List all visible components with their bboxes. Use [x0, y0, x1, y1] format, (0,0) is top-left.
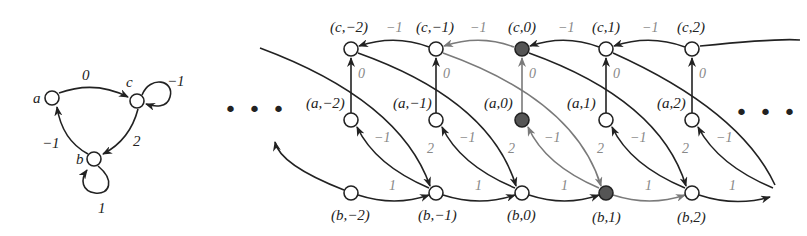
grid-edges	[260, 40, 800, 202]
diagram-canvas: a c b 0 −1 2 −1 1 • • • • • •	[0, 0, 807, 236]
weight-b-loop: 1	[98, 200, 106, 216]
svg-text:1: 1	[729, 178, 736, 193]
small-graph-nodes	[45, 91, 144, 166]
edge-b-a	[57, 107, 88, 154]
svg-text:0: 0	[613, 66, 620, 81]
node-b-1-highlighted	[599, 186, 613, 200]
label-c-0: (c,0)	[508, 19, 536, 36]
weight-c-loop: −1	[167, 73, 185, 89]
node-b-0	[515, 186, 529, 200]
edge-b2-to-b3	[699, 195, 770, 202]
edge-b0-to-b1	[529, 195, 599, 201]
edge-a-c	[59, 87, 128, 97]
weight-a-c: 0	[82, 67, 90, 83]
weight-b-a: −1	[42, 135, 60, 151]
label-b-minus2: (b,−2)	[331, 207, 370, 224]
label-a-minus2: (a,−2)	[306, 95, 345, 112]
node-c	[130, 94, 144, 108]
ellipsis-right: • • •	[735, 100, 798, 125]
label-b-0: (b,0)	[507, 207, 536, 224]
edge-c0-to-c-1	[444, 40, 514, 47]
node-a-2	[685, 113, 699, 127]
label-c-2: (c,2)	[677, 19, 705, 36]
edge-c2-to-c1	[614, 40, 685, 47]
svg-text:1: 1	[389, 178, 396, 193]
svg-text:−1: −1	[374, 130, 390, 145]
svg-text:2: 2	[597, 141, 604, 156]
label-c-1: (c,1)	[592, 19, 620, 36]
weight-c-b: 2	[133, 133, 141, 149]
node-b-minus1	[429, 186, 443, 200]
svg-text:−1: −1	[459, 130, 475, 145]
svg-text:−1: −1	[716, 130, 732, 145]
svg-text:0: 0	[699, 66, 706, 81]
label-b-minus1: (b,−1)	[418, 207, 457, 224]
edge-b-2-to-a-3	[275, 142, 344, 190]
node-a-minus2	[344, 113, 358, 127]
label-b: b	[76, 151, 84, 167]
label-a-0: (a,0)	[484, 95, 513, 112]
graph-svg: a c b 0 −1 2 −1 1 • • • • • •	[0, 0, 807, 236]
node-a-minus1	[429, 113, 443, 127]
svg-text:2: 2	[508, 141, 515, 156]
label-a: a	[33, 90, 41, 106]
svg-text:−1: −1	[630, 130, 646, 145]
svg-text:2: 2	[682, 141, 689, 156]
svg-text:−1: −1	[470, 20, 486, 35]
edge-b-1-to-b0	[443, 195, 515, 201]
label-b-2: (b,2)	[677, 209, 706, 226]
small-graph	[57, 82, 171, 193]
node-c-minus2	[344, 42, 358, 56]
svg-text:2: 2	[427, 141, 434, 156]
edge-b1-to-b2	[613, 195, 685, 201]
node-c-0-highlighted	[515, 42, 529, 56]
node-b	[87, 152, 101, 166]
node-c-minus1	[429, 42, 443, 56]
svg-text:−1: −1	[544, 130, 560, 145]
ellipsis-left: • • •	[224, 97, 287, 122]
svg-text:−1: −1	[642, 20, 658, 35]
node-a	[45, 91, 59, 105]
svg-text:−1: −1	[386, 20, 402, 35]
node-c-2	[685, 42, 699, 56]
label-a-1: (a,1)	[567, 95, 596, 112]
label-c-minus2: (c,−2)	[330, 19, 368, 36]
svg-text:0: 0	[443, 66, 450, 81]
svg-text:−1: −1	[558, 20, 574, 35]
node-b-2	[685, 186, 699, 200]
node-c-1	[599, 42, 613, 56]
label-c: c	[126, 74, 133, 90]
label-b-1: (b,1)	[592, 209, 621, 226]
edge-c1-to-c0	[530, 40, 599, 47]
edge-c-1-to-c-2	[359, 40, 429, 47]
edge-c3-to-c2	[700, 40, 800, 46]
grid-node-labels: (c,−2) (c,−1) (c,0) (c,1) (c,2) (a,−2) (…	[306, 19, 706, 226]
node-a-0-highlighted	[515, 113, 529, 127]
node-a-1	[599, 113, 613, 127]
edge-b-b-loop	[83, 166, 109, 193]
label-a-2: (a,2)	[657, 95, 686, 112]
svg-text:1: 1	[561, 178, 568, 193]
label-a-minus1: (a,−1)	[393, 95, 432, 112]
label-c-minus1: (c,−1)	[416, 19, 454, 36]
edge-b-2-to-b-1	[358, 195, 429, 201]
svg-text:0: 0	[358, 66, 365, 81]
svg-text:0: 0	[529, 66, 536, 81]
svg-text:1: 1	[645, 178, 652, 193]
node-b-minus2	[344, 186, 358, 200]
svg-text:1: 1	[475, 178, 482, 193]
